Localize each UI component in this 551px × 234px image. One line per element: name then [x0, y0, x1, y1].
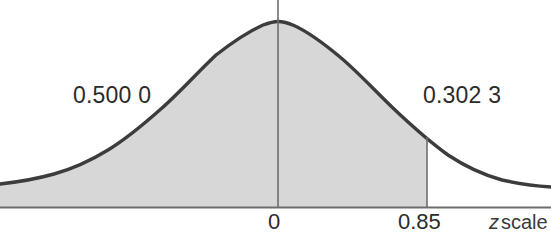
normal-curve-figure: 0.500 0 0.302 3 0 0.85 zscale	[0, 0, 551, 234]
x-axis-tick-label-zero: 0	[268, 211, 280, 233]
left-area-annotation: 0.500 0	[73, 84, 151, 107]
shaded-area-region	[0, 22, 427, 208]
distribution-plot	[0, 0, 551, 234]
x-axis-variable-symbol: z	[489, 211, 501, 233]
x-axis-tick-label-085: 0.85	[398, 211, 441, 233]
right-area-annotation: 0.302 3	[423, 84, 501, 107]
x-axis-title: zscale	[489, 212, 548, 232]
x-axis-scale-word: scale	[501, 211, 548, 233]
